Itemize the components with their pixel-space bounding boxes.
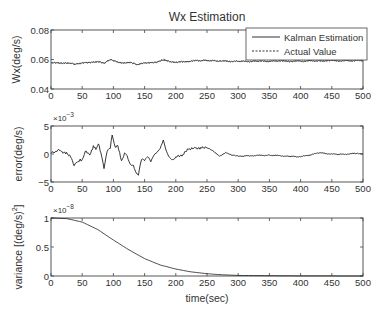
axes-box: [51, 218, 363, 276]
x-tick-label: 450: [324, 183, 340, 194]
x-tick-label: 350: [261, 183, 277, 194]
x-tick-label: 450: [324, 277, 340, 288]
x-tick-label: 50: [77, 277, 88, 288]
legend: Kalman Estimation Actual Value: [246, 28, 367, 60]
x-tick-label: 150: [137, 183, 153, 194]
y-tick-label: 0.08: [31, 25, 50, 36]
y-axis-label: error(deg/s): [12, 127, 24, 182]
x-tick-label: 300: [230, 90, 246, 101]
x-tick-label: 250: [199, 183, 215, 194]
x-tick-label: 250: [199, 277, 215, 288]
x-tick-label: 500: [355, 183, 371, 194]
x-tick-label: 500: [355, 90, 371, 101]
y-tick-label: 0: [44, 271, 49, 282]
x-tick-label: 400: [293, 90, 309, 101]
legend-label-kalman: Kalman Estimation: [284, 32, 363, 43]
x-tick-label: 500: [355, 277, 371, 288]
x-tick-label: 250: [199, 90, 215, 101]
y-axis-label: Wx(deg/s): [10, 36, 22, 84]
x-tick-label: 450: [324, 90, 340, 101]
x-tick-label: 100: [105, 90, 121, 101]
x-tick-label: 0: [48, 277, 53, 288]
legend-label-actual: Actual Value: [284, 46, 337, 57]
panel-variance: 05010015020025030035040045050000.51×10−8…: [11, 203, 371, 290]
x-tick-label: 350: [261, 90, 277, 101]
y-tick-label: 5: [44, 121, 49, 132]
y-tick-label: 0: [44, 149, 49, 160]
axes-box: [51, 126, 363, 182]
x-tick-label: 350: [261, 277, 277, 288]
panel-error: 050100150200250300350400450500−505×10−3e…: [12, 111, 371, 194]
x-tick-label: 400: [293, 183, 309, 194]
x-tick-label: 100: [105, 183, 121, 194]
x-axis-label: time(sec): [185, 292, 228, 304]
x-tick-label: 400: [293, 277, 309, 288]
y-tick-label: 0.04: [31, 84, 50, 95]
x-tick-label: 300: [230, 277, 246, 288]
x-tick-label: 0: [48, 90, 53, 101]
y-multiplier: ×10−8: [53, 203, 74, 215]
figure: Wx Estimation 05010015020025030035040045…: [0, 0, 385, 321]
y-tick-label: 0.06: [31, 54, 50, 65]
x-tick-label: 200: [168, 183, 184, 194]
y-multiplier: ×10−3: [53, 111, 74, 123]
y-tick-label: 0.5: [36, 242, 49, 253]
x-tick-label: 300: [230, 183, 246, 194]
x-tick-label: 200: [168, 277, 184, 288]
chart-title: Wx Estimation: [169, 10, 246, 24]
y-axis-label: variance [(deg/s)2]: [11, 204, 24, 289]
x-tick-label: 50: [77, 183, 88, 194]
x-tick-label: 150: [137, 90, 153, 101]
y-tick-label: −5: [38, 177, 49, 188]
x-tick-label: 50: [77, 90, 88, 101]
y-tick-label: 1: [44, 213, 49, 224]
x-tick-label: 200: [168, 90, 184, 101]
x-tick-label: 150: [137, 277, 153, 288]
x-tick-label: 0: [48, 183, 53, 194]
x-tick-label: 100: [105, 277, 121, 288]
